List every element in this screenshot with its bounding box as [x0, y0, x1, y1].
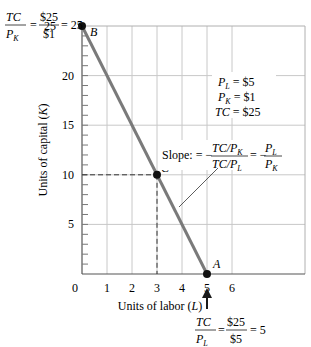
svg-text:PL: PL	[195, 332, 208, 347]
x-axis-title: Units of labor (L)	[118, 299, 202, 313]
slope-label: Slope: = −	[162, 148, 212, 162]
point-a	[203, 270, 211, 278]
isocost-chart: 0123456510152025 BCA Units of labor (L) …	[0, 0, 311, 347]
svg-text:$1: $1	[43, 27, 55, 41]
price-info: PL = $5 PK = $1 TC = $25	[212, 72, 276, 119]
total-cost: TC = $25	[215, 105, 260, 119]
y-tick-label: 5	[68, 217, 74, 231]
svg-text:$25: $25	[40, 10, 58, 24]
y-tick-label: 15	[62, 118, 74, 132]
point-c	[153, 171, 161, 179]
svg-text:TC: TC	[196, 315, 212, 329]
svg-text:=: =	[30, 18, 37, 32]
svg-text:= 5: = 5	[250, 323, 266, 337]
point-label-a: A	[212, 257, 221, 271]
point-label-b: B	[90, 25, 98, 39]
svg-text:= 25: = 25	[61, 18, 83, 32]
slope-leader-line	[179, 168, 218, 207]
x-tick-label: 2	[129, 281, 135, 295]
svg-text:TC: TC	[6, 10, 22, 24]
price-labor: PL = $5	[217, 75, 255, 91]
x-tick-label: 0	[72, 281, 78, 295]
y-tick-label: 20	[62, 69, 74, 83]
x-tick-label: 1	[104, 281, 110, 295]
svg-text:=: =	[218, 323, 225, 337]
capital-intercept-formula: TC PK = $25 $1 = 25	[5, 10, 83, 43]
slope-annotation: Slope: = − TC/PK TC/PL = − PL PK	[160, 140, 290, 207]
x-tick-label: 3	[154, 281, 160, 295]
labor-intercept-formula: TC PL = $25 $5 = 5	[195, 288, 266, 347]
x-tick-label: 4	[179, 281, 185, 295]
x-tick-label: 6	[229, 281, 235, 295]
price-capital: PK = $1	[217, 90, 255, 106]
y-tick-label: 10	[62, 168, 74, 182]
svg-text:$5: $5	[230, 332, 242, 346]
svg-text:PK: PK	[5, 27, 19, 43]
y-axis-title: Units of capital (K)	[36, 104, 50, 197]
svg-text:$25: $25	[227, 315, 245, 329]
